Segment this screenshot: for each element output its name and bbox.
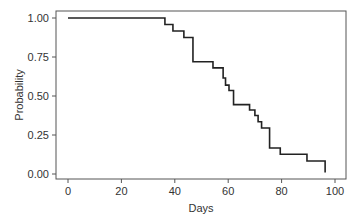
x-tick-label: 0	[65, 185, 71, 197]
survival-chart: 020406080100 0.000.250.500.751.00 Days P…	[0, 0, 364, 223]
y-tick-label: 0.50	[28, 90, 49, 102]
y-tick-label: 0.25	[28, 129, 49, 141]
x-axis-label: Days	[188, 202, 214, 214]
y-tick-label: 1.00	[28, 12, 49, 24]
x-tick-label: 20	[115, 185, 127, 197]
y-axis: 0.000.250.500.751.00	[28, 12, 56, 180]
x-tick-label: 40	[169, 185, 181, 197]
y-axis-label: Probability	[13, 69, 25, 121]
x-tick-label: 80	[275, 185, 287, 197]
y-tick-label: 0.00	[28, 168, 49, 180]
survival-curve	[68, 18, 325, 172]
x-tick-label: 100	[326, 185, 344, 197]
x-tick-label: 60	[222, 185, 234, 197]
y-tick-label: 0.75	[28, 51, 49, 63]
x-axis: 020406080100	[65, 179, 344, 197]
